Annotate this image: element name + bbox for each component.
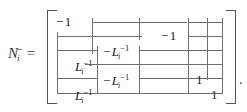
entry-exponent: −1 (120, 43, 129, 53)
entry-exponent: −1 (83, 58, 92, 68)
entry-value: 1 (65, 14, 72, 29)
vertical-rule (139, 46, 140, 94)
vertical-rule (139, 18, 140, 40)
matrix-entry: −1 (56, 14, 71, 30)
matrix-entry: Li−1 (75, 87, 93, 105)
horizontal-rule (85, 64, 222, 65)
horizontal-rule (139, 78, 222, 79)
equation-figure: Ni−= −1−1−Li−1Li−1−Li−11Li−11 . (0, 0, 247, 112)
vertical-rule (222, 18, 223, 94)
equals-sign: = (27, 45, 35, 61)
entry-subscript: i (118, 52, 120, 61)
trailing-period: . (239, 72, 243, 88)
horizontal-rule (139, 50, 222, 51)
vertical-rule (207, 18, 208, 80)
vertical-rule (92, 18, 93, 54)
vertical-rule (57, 32, 58, 94)
minus-sign: − (103, 44, 110, 59)
entry-subscript: i (81, 67, 83, 76)
minus-sign: − (103, 73, 110, 88)
entry-exponent: −1 (83, 87, 92, 97)
vertical-rule (97, 46, 98, 94)
vertical-rule (188, 18, 189, 94)
matrix-entry: −Li−1 (103, 72, 129, 90)
matrix-entry: −1 (161, 28, 176, 44)
lhs-superscript: − (17, 43, 23, 55)
lhs-label: Ni−= (8, 43, 35, 63)
entry-exponent: −1 (120, 72, 129, 82)
entry-value: 1 (211, 87, 218, 102)
entry-value: 1 (170, 28, 177, 43)
entry-value: 1 (196, 72, 203, 87)
matrix-entry: Li−1 (75, 58, 93, 76)
horizontal-rule (57, 78, 97, 79)
minus-sign: − (56, 14, 63, 29)
entry-subscript: i (81, 96, 83, 105)
matrix-entry: 1 (196, 72, 203, 88)
horizontal-rule (188, 22, 222, 23)
entry-subscript: i (118, 81, 120, 90)
horizontal-rule (188, 36, 222, 37)
horizontal-rule (57, 50, 97, 51)
horizontal-rule (92, 22, 187, 23)
horizontal-rule (57, 36, 142, 37)
matrix-right-bracket (226, 10, 236, 104)
matrix-entry: −Li−1 (103, 43, 129, 61)
matrix-entry: 1 (211, 87, 218, 103)
minus-sign: − (161, 28, 168, 43)
